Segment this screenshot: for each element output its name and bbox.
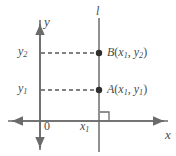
point-B-close-paren: ) <box>143 45 147 59</box>
y2-tick-label: y2 <box>18 45 27 59</box>
y1-tick-sub: 1 <box>23 87 27 96</box>
point-A-label: A(x1, y1) <box>107 83 147 97</box>
y2-tick-sub: 2 <box>23 50 27 59</box>
point-A-close-paren: ) <box>143 82 147 96</box>
y-axis-label: y <box>44 15 50 28</box>
origin-label: 0 <box>44 120 50 132</box>
line-l-label: l <box>96 5 99 17</box>
y1-tick-label: y1 <box>18 82 27 96</box>
right-angle-marker-icon <box>100 112 109 121</box>
x1-tick-sub: 1 <box>85 125 89 134</box>
x-axis-label: x <box>165 128 171 141</box>
coordinate-plane-figure: y x l 0 y2 y1 x1 B(x1, y2) A(x1, y1) <box>0 0 176 156</box>
x1-tick-label: x1 <box>80 120 89 134</box>
point-A-dot <box>96 87 102 93</box>
point-B-label: B(x1, y2) <box>107 46 147 60</box>
point-B-dot <box>96 50 102 56</box>
